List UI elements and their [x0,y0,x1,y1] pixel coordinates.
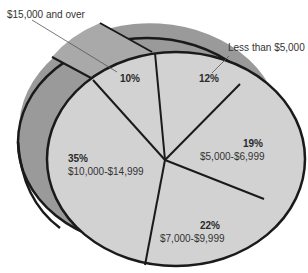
pct-12: 12% [199,73,219,84]
pct-35: 35% [68,153,88,164]
label-15000-over: $15,000 and over [7,9,86,20]
pct-10: 10% [120,73,140,84]
income-pie-chart: $15,000 and over Less than $5,000 10% 12… [0,0,308,273]
range-35: $10,000-$14,999 [68,166,144,177]
pct-22: 22% [200,220,220,231]
range-19: $5,000-$6,999 [200,151,265,162]
pct-19: 19% [243,138,263,149]
range-22: $7,000-$9,999 [160,233,225,244]
label-less-5000: Less than $5,000 [228,42,305,53]
